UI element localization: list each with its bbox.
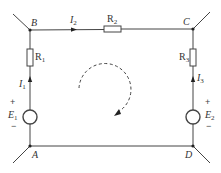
source-e2 (186, 110, 200, 124)
current-i2-arrow-icon (71, 27, 77, 31)
source-e1 (23, 110, 37, 124)
source-e2-minus: − (206, 122, 211, 131)
current-i3-arrow-icon (191, 76, 195, 82)
node-a-label: A (32, 150, 38, 160)
resistor-r3-label: R3 (179, 52, 189, 64)
resistor-r1-label: R1 (35, 52, 45, 64)
node-b-label: B (31, 18, 37, 28)
resistor-r2 (104, 26, 121, 32)
loop-direction-arc (79, 64, 131, 112)
current-i1-label: I1 (19, 79, 26, 91)
node-c-label: C (183, 17, 190, 27)
wire-b-r2 (30, 30, 104, 31)
lead-d (193, 146, 210, 163)
node-b-dot (28, 28, 31, 31)
current-i3-label: I3 (197, 73, 204, 85)
resistor-r2-label: R2 (107, 14, 117, 26)
node-a-dot (28, 144, 31, 147)
resistor-r3 (190, 49, 196, 66)
source-e2-plus: + (205, 98, 210, 107)
lead-a (13, 146, 30, 163)
node-c-dot (191, 27, 194, 30)
lead-c (193, 12, 210, 29)
source-e1-minus: − (11, 122, 16, 131)
loop-arrowhead-icon (114, 109, 121, 116)
source-e1-plus: + (10, 98, 15, 107)
node-d-dot (191, 144, 194, 147)
node-d-label: D (185, 150, 192, 160)
current-i2-label: I2 (70, 15, 77, 27)
lead-b (13, 14, 30, 30)
current-i1-arrow-icon (28, 76, 32, 82)
resistor-r1 (27, 49, 33, 66)
